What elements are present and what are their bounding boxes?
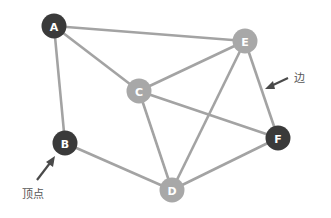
graph-diagram: ABCDEF 边 顶点 [0,0,331,218]
node-label: D [167,185,176,198]
edge-A-B [54,26,65,143]
edge-D-F [172,138,278,190]
edge-A-E [54,26,245,41]
edge-E-D [172,41,245,190]
arrowhead-icon [265,81,275,89]
node-E: E [233,29,258,54]
node-B: B [53,131,78,156]
node-label: C [135,86,143,99]
vertex-annotation: 顶点 [22,156,55,201]
edge-E-F [245,41,278,138]
node-C: C [127,79,152,104]
node-label: E [241,36,249,49]
edge-C-E [139,41,245,91]
arrow-icon [37,163,50,180]
edge-label: 边 [294,72,305,85]
node-A: A [42,14,67,39]
edge-B-D [65,143,172,190]
edge-C-D [139,91,172,190]
node-label: B [61,138,69,151]
vertex-label: 顶点 [22,188,44,201]
edge-A-C [54,26,139,91]
edge-annotation: 边 [265,72,305,89]
node-label: F [274,133,282,146]
node-F: F [266,126,291,151]
node-D: D [160,178,185,203]
node-label: A [50,21,59,34]
